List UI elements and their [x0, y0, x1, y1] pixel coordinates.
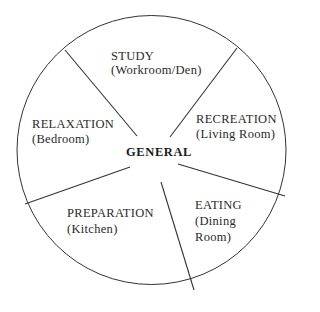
- center-label: GENERAL: [126, 145, 192, 160]
- segment-preparation-subtitle: (Kitchen): [67, 222, 118, 237]
- segment-eating-subtitle-line1: (Dining: [195, 214, 236, 229]
- segment-study-subtitle: (Workroom/Den): [111, 63, 202, 78]
- segment-eating-subtitle-line2: Room): [195, 230, 231, 245]
- segment-preparation-title: PREPARATION: [67, 206, 154, 221]
- segment-relaxation-subtitle: (Bedroom): [32, 132, 90, 147]
- divider-preparation-relaxation: [25, 167, 130, 204]
- segment-relaxation-title: RELAXATION: [32, 117, 114, 132]
- segment-recreation-title: RECREATION: [196, 112, 277, 127]
- segment-study-title: STUDY: [111, 49, 154, 64]
- divider-recreation-eating: [178, 164, 285, 196]
- segment-eating-title: EATING: [195, 198, 242, 213]
- divider-eating-preparation: [161, 182, 194, 290]
- segment-recreation-subtitle: (Living Room): [196, 127, 275, 142]
